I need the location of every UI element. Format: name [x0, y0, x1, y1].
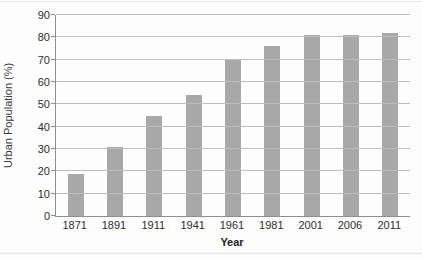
- x-tick-label-1891: 1891: [94, 219, 133, 231]
- bar-slot-1891: [95, 15, 134, 216]
- bar-slot-1911: [135, 15, 174, 216]
- bar-slot-1961: [213, 15, 252, 216]
- gridline-90: [56, 14, 410, 15]
- bar-slot-1941: [174, 15, 213, 216]
- bar-1981: [264, 46, 280, 216]
- bar-1911: [146, 116, 162, 217]
- bar-1891: [107, 147, 123, 216]
- x-axis-title: Year: [55, 236, 409, 248]
- gridline-30: [56, 148, 410, 149]
- y-tick-label-20: 20: [24, 165, 50, 177]
- gridline-50: [56, 103, 410, 104]
- y-tick-label-30: 30: [24, 143, 50, 155]
- y-tick-label-10: 10: [24, 188, 50, 200]
- bar-slot-1981: [253, 15, 292, 216]
- y-tick-label-70: 70: [24, 54, 50, 66]
- urban-population-bar-chart: Urban Population (%) 1871189119111941196…: [0, 0, 422, 259]
- y-tick-mark-50: [51, 103, 55, 104]
- bar-slot-2006: [331, 15, 370, 216]
- y-tick-label-50: 50: [24, 98, 50, 110]
- page-rule-bottom: [0, 253, 422, 254]
- y-tick-mark-20: [51, 170, 55, 171]
- bars-row: [56, 15, 410, 216]
- x-tick-label-2001: 2001: [291, 219, 330, 231]
- bar-slot-2011: [371, 15, 410, 216]
- y-tick-mark-40: [51, 126, 55, 127]
- plot-area: [55, 15, 410, 217]
- x-tick-label-1911: 1911: [134, 219, 173, 231]
- y-tick-label-90: 90: [24, 9, 50, 21]
- bar-slot-2001: [292, 15, 331, 216]
- y-tick-mark-10: [51, 193, 55, 194]
- y-tick-mark-70: [51, 59, 55, 60]
- bar-slot-1871: [56, 15, 95, 216]
- x-tick-label-1961: 1961: [212, 219, 251, 231]
- bar-2011: [382, 33, 398, 216]
- y-tick-label-0: 0: [24, 210, 50, 222]
- bar-1941: [186, 95, 202, 216]
- gridline-20: [56, 170, 410, 171]
- y-tick-label-80: 80: [24, 31, 50, 43]
- gridline-70: [56, 59, 410, 60]
- y-axis-title: Urban Population (%): [2, 15, 18, 216]
- y-tick-label-40: 40: [24, 121, 50, 133]
- gridline-80: [56, 36, 410, 37]
- x-tick-label-2011: 2011: [370, 219, 409, 231]
- y-tick-label-60: 60: [24, 76, 50, 88]
- gridline-40: [56, 126, 410, 127]
- y-tick-mark-60: [51, 81, 55, 82]
- y-tick-mark-80: [51, 36, 55, 37]
- y-tick-mark-30: [51, 148, 55, 149]
- x-tick-label-1871: 1871: [55, 219, 94, 231]
- gridline-60: [56, 81, 410, 82]
- x-tick-labels: 187118911911194119611981200120062011: [55, 219, 409, 231]
- page-rule-top: [0, 1, 422, 2]
- x-tick-label-2006: 2006: [330, 219, 369, 231]
- x-tick-label-1981: 1981: [252, 219, 291, 231]
- bar-1871: [68, 174, 84, 216]
- gridline-10: [56, 193, 410, 194]
- y-tick-mark-0: [51, 215, 55, 216]
- y-tick-mark-90: [51, 14, 55, 15]
- x-tick-label-1941: 1941: [173, 219, 212, 231]
